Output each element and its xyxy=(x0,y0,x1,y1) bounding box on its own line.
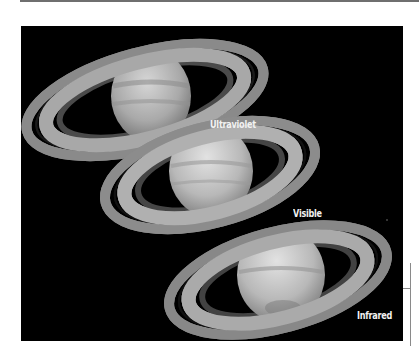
top-rule xyxy=(20,0,419,2)
star-speck xyxy=(386,219,388,221)
label-infrared: Infrared xyxy=(357,309,392,322)
label-ultraviolet: Ultraviolet xyxy=(210,118,256,131)
side-bracket-tick xyxy=(403,288,411,289)
saturn-image-panel: Ultraviolet Visible Infrared xyxy=(21,26,403,341)
saturn-figure xyxy=(21,26,403,341)
side-bracket-line xyxy=(410,263,411,346)
label-visible: Visible xyxy=(293,207,322,220)
